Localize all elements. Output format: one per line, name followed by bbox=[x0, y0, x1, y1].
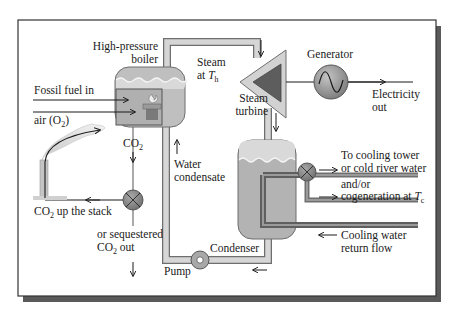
water-label-line2: condensate bbox=[174, 171, 225, 183]
cooling-tower-label-line2: or cold river water bbox=[341, 162, 426, 174]
condenser-label: Condenser bbox=[210, 242, 259, 254]
pump bbox=[191, 251, 209, 269]
generator-label: Generator bbox=[307, 48, 353, 60]
cogen-label-line1: and/or bbox=[341, 178, 371, 190]
boiler-label-line2: boiler bbox=[131, 53, 158, 65]
turbine-label-line2: turbine bbox=[235, 105, 268, 117]
co2-valve bbox=[123, 190, 143, 210]
cooling-valve bbox=[298, 163, 316, 181]
water-label-line1: Water bbox=[174, 158, 201, 170]
electricity-label-line2: out bbox=[372, 101, 388, 113]
steam-label-line1: Steam bbox=[197, 56, 226, 68]
turbine-label-line1: Steam bbox=[239, 92, 268, 104]
return-label-line1: Cooling water bbox=[341, 229, 407, 242]
sequestered-label-line1: or sequestered bbox=[97, 228, 163, 241]
electricity-label-line1: Electricity bbox=[372, 88, 420, 101]
pump-label: Pump bbox=[164, 265, 191, 278]
return-label-line2: return flow bbox=[341, 242, 393, 254]
fossil-fuel-label: Fossil fuel in bbox=[34, 84, 94, 96]
high-pressure-boiler bbox=[115, 67, 187, 127]
boiler-label-line1: High-pressure bbox=[93, 40, 158, 53]
power-plant-diagram: Fossil fuel in air (O2) High-pressure bo… bbox=[0, 0, 449, 312]
cooling-tower-label-line1: To cooling tower bbox=[341, 149, 420, 162]
generator bbox=[314, 65, 348, 99]
